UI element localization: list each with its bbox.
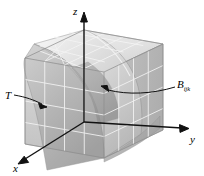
z-axis-arrowhead	[81, 12, 88, 22]
figure-container: z y x T Bijk	[0, 0, 204, 176]
y-axis-label: y	[190, 134, 195, 145]
figure-canvas	[0, 0, 204, 176]
z-axis-label: z	[73, 6, 77, 17]
subbox-label-B-subscript: ijk	[184, 85, 191, 92]
subbox-label-B-text: B	[177, 78, 184, 90]
surface-label-T: T	[5, 90, 11, 101]
x-axis-label: x	[13, 163, 18, 174]
y-axis-arrowhead	[180, 125, 190, 133]
subbox-label-B: Bijk	[177, 79, 190, 93]
surface-label-T-text: T	[5, 89, 11, 101]
